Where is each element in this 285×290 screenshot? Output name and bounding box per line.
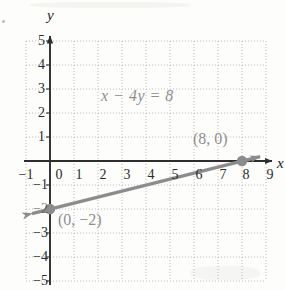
- y-tick-label-4: 4: [38, 58, 45, 72]
- x-tick-label-6: 6: [196, 168, 203, 182]
- figure-container: −1 0 1 2 3 4 5 6 7 8 9 5 4 3 2 1 −1 −2 −…: [0, 0, 285, 290]
- y-tick-label-neg3: −3: [33, 226, 48, 240]
- axis-lines: [24, 36, 272, 285]
- x-tick-label-1: 1: [76, 168, 83, 182]
- graph-line: [32, 157, 260, 214]
- x-axis-label: x: [277, 156, 284, 171]
- x-tick-label-3: 3: [124, 168, 131, 182]
- y-tick-label-2: 2: [38, 106, 45, 120]
- point-label-0-neg2: (0, −2): [58, 212, 102, 228]
- y-tick-label-1: 1: [38, 130, 45, 144]
- x-tick-label-8: 8: [243, 168, 250, 182]
- x-tick-label-4: 4: [148, 168, 155, 182]
- x-tick-label-9: 9: [267, 168, 274, 182]
- y-tick-label-neg2: −2: [33, 202, 48, 216]
- y-tick-label-neg1: −1: [33, 178, 48, 192]
- y-tick-label-neg5: −5: [33, 274, 48, 288]
- x-tick-label-0: 0: [56, 168, 63, 182]
- equation-label: x − 4y = 8: [101, 88, 174, 104]
- point-label-8-0: (8, 0): [193, 131, 228, 147]
- y-tick-label-5: 5: [38, 34, 45, 48]
- x-tick-label-neg1: −1: [19, 168, 34, 182]
- x-tick-label-5: 5: [172, 168, 179, 182]
- x-tick-label-2: 2: [100, 168, 107, 182]
- y-axis-label: y: [47, 8, 54, 23]
- x-tick-label-7: 7: [220, 168, 227, 182]
- y-tick-label-neg4: −4: [33, 250, 48, 264]
- y-tick-label-3: 3: [38, 82, 45, 96]
- point-8-0: [237, 156, 247, 166]
